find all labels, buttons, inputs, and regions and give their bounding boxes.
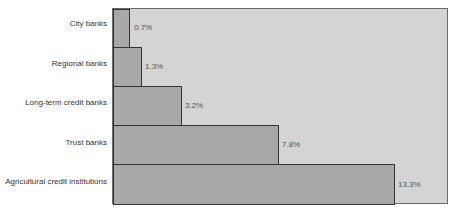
category-label: Trust banks bbox=[66, 138, 108, 147]
bar-trust-banks bbox=[113, 125, 279, 165]
bar-long-term-credit-banks bbox=[113, 86, 182, 126]
value-label: 7.8% bbox=[282, 140, 300, 149]
bar-city-banks bbox=[113, 9, 130, 48]
plot-area bbox=[112, 8, 448, 204]
category-label: Agricultural credit institutions bbox=[5, 177, 107, 186]
value-label: 3.2% bbox=[185, 101, 203, 110]
category-label: Regional banks bbox=[52, 59, 107, 68]
value-label: 0.7% bbox=[134, 23, 152, 32]
value-label: 13.3% bbox=[398, 180, 421, 189]
bar-agricultural-credit-institutions bbox=[113, 164, 395, 205]
bar-regional-banks bbox=[113, 47, 142, 87]
category-label: Long-term credit banks bbox=[25, 98, 107, 107]
value-label: 1.3% bbox=[145, 62, 163, 71]
category-label: City banks bbox=[70, 19, 107, 28]
